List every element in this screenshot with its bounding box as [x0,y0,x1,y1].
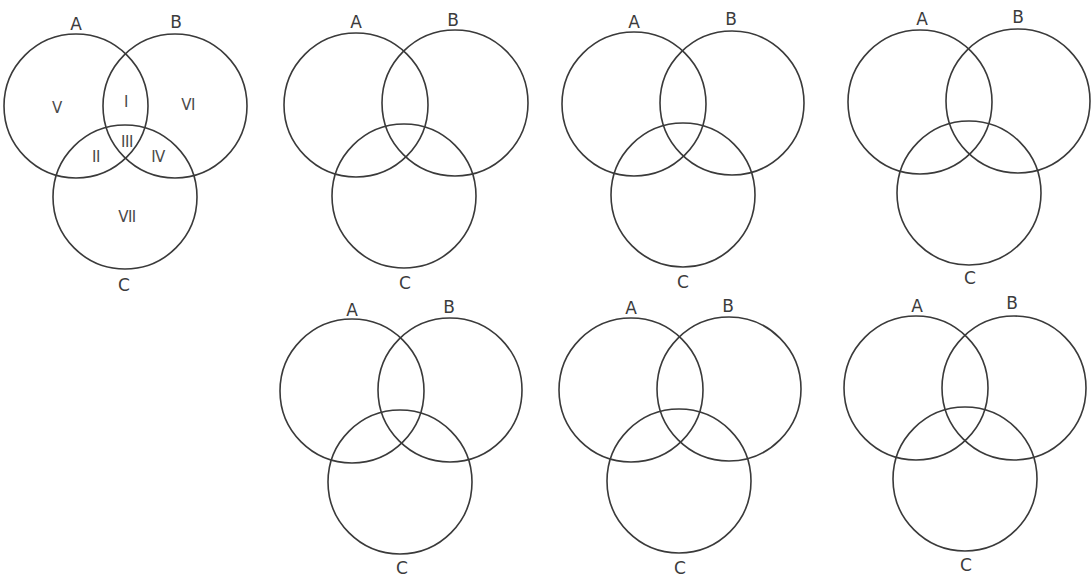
set-label-c: C [674,558,686,578]
circle-set-a [844,316,988,460]
circle-set-a [284,33,428,177]
region-label-vii: VII [118,208,136,226]
circle-set-b [946,29,1090,173]
circle-set-b [378,318,522,462]
set-label-a: A [70,14,82,34]
circle-set-c [607,409,751,553]
circle-set-a [559,318,703,462]
venn-diagram-blank-6: ABC [844,293,1086,575]
circle-set-a [280,319,424,463]
circle-set-c [893,407,1037,551]
circle-set-c [328,410,472,554]
venn-diagram-blank-4: ABC [280,297,522,578]
set-label-b: B [170,12,182,32]
venn-diagram-blank-3: ABC [848,7,1090,288]
set-label-a: A [350,12,362,32]
set-label-b: B [1006,293,1018,313]
set-label-a: A [346,300,358,320]
set-label-c: C [677,272,689,292]
set-label-a: A [625,298,637,318]
set-label-a: A [628,12,640,32]
region-label-vi: VI [181,96,195,114]
set-label-b: B [447,10,459,30]
set-label-c: C [399,273,411,293]
region-label-iv: IV [151,148,166,166]
circle-set-a [562,32,706,176]
venn-diagram-reference: ABCIIIIIIIVVVIVII [4,12,247,295]
region-label-ii: II [92,148,100,166]
set-label-b: B [725,9,737,29]
venn-diagram-blank-1: ABC [284,10,528,293]
set-label-b: B [722,296,734,316]
set-label-c: C [964,268,976,288]
venn-diagram-blank-2: ABC [562,9,804,292]
set-label-b: B [1012,7,1024,27]
set-label-c: C [960,555,972,575]
region-label-iii: III [121,133,133,151]
set-label-c: C [118,275,130,295]
venn-diagram-blank-5: ABC [559,296,801,578]
circle-set-b [942,316,1086,460]
venn-diagram-sheet: ABCIIIIIIIVVVIVIIABCABCABCABCABCABC [0,0,1091,580]
region-label-i: I [124,93,128,111]
circle-set-c [332,124,476,268]
circle-set-a [848,30,992,174]
circle-set-b [382,30,528,176]
set-label-b: B [443,297,455,317]
set-label-c: C [396,558,408,578]
set-label-a: A [916,9,928,29]
circle-set-b [657,317,801,461]
region-label-v: V [52,99,63,117]
set-label-a: A [911,296,923,316]
circle-set-b [660,31,804,175]
circle-set-c [611,123,755,267]
circle-set-c [897,121,1041,265]
